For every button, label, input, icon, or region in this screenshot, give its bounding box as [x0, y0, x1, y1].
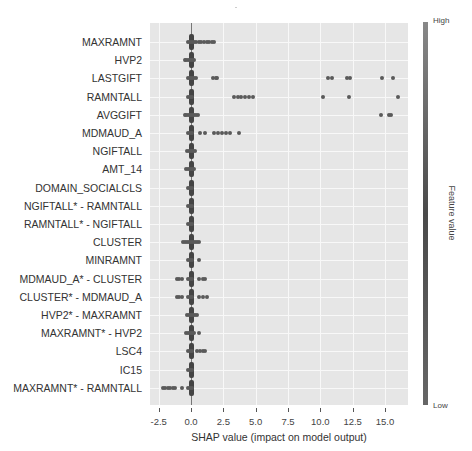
x-tick-mark	[288, 408, 289, 412]
x-tick-mark	[191, 408, 192, 412]
shap-point	[196, 113, 200, 117]
x-tick-mark	[385, 408, 386, 412]
shap-point	[190, 186, 194, 190]
shap-point	[228, 131, 232, 135]
feature-label: DOMAIN_SOCIALCLS	[35, 182, 142, 194]
feature-label: LSC4	[116, 345, 142, 357]
x-tick-mark	[320, 408, 321, 412]
shap-point	[215, 76, 219, 80]
feature-label: MINRAMNT	[85, 254, 142, 266]
x-tick-label: 12.5	[343, 416, 362, 427]
vertical-gridline	[353, 23, 354, 405]
vertical-gridline	[320, 23, 321, 405]
feature-label: LASTGIFT	[92, 72, 142, 84]
colorbar-high-label: High	[433, 16, 449, 25]
shap-point	[203, 277, 207, 281]
vertical-gridline	[256, 23, 257, 405]
feature-label: CLUSTER	[93, 236, 142, 248]
feature-label: RAMNTALL* - NGIFTALL	[24, 218, 142, 230]
shap-point	[197, 258, 201, 262]
shap-point	[198, 131, 202, 135]
x-tick-label: 10.0	[311, 416, 330, 427]
feature-value-colorbar	[423, 22, 428, 405]
shap-point	[396, 95, 400, 99]
shap-point	[389, 113, 393, 117]
shap-point	[190, 131, 194, 135]
feature-label: HVP2	[115, 54, 142, 66]
shap-point	[348, 76, 352, 80]
shap-point	[190, 277, 194, 281]
shap-point	[190, 349, 194, 353]
shap-point	[197, 331, 201, 335]
x-tick-mark	[256, 408, 257, 412]
feature-label: HVP2* - MAXRAMNT	[41, 309, 142, 321]
vertical-gridline	[223, 23, 224, 405]
shap-point	[190, 95, 194, 99]
shap-point	[251, 95, 255, 99]
feature-label: AMT_14	[102, 163, 142, 175]
shap-point	[192, 167, 196, 171]
shap-point	[379, 113, 383, 117]
shap-point	[180, 277, 184, 281]
feature-label: MAXRAMNT	[82, 36, 142, 48]
vertical-gridline	[159, 23, 160, 405]
shap-point	[330, 76, 334, 80]
vertical-gridline	[385, 23, 386, 405]
shap-point	[212, 40, 216, 44]
feature-label: NGIFTALL* - RAMNTALL	[24, 200, 142, 212]
x-tick-label: 5.0	[249, 416, 262, 427]
shap-point	[391, 76, 395, 80]
x-tick-label: 7.5	[281, 416, 294, 427]
shap-point	[237, 131, 241, 135]
shap-point	[190, 295, 194, 299]
shap-point	[194, 76, 198, 80]
feature-label: CLUSTER* - MDMAUD_A	[19, 291, 142, 303]
x-tick-label: 2.5	[217, 416, 230, 427]
shap-point	[380, 76, 384, 80]
stray-mark	[235, 7, 237, 8]
shap-point	[347, 95, 351, 99]
x-tick-mark	[159, 408, 160, 412]
vertical-gridline	[288, 23, 289, 405]
shap-point	[205, 295, 209, 299]
y-axis-feature-labels: MAXRAMNTHVP2LASTGIFTRAMNTALLAVGGIFTMDMAU…	[0, 0, 142, 451]
feature-label: MDMAUD_A	[82, 127, 142, 139]
shap-point	[180, 295, 184, 299]
feature-label: MAXRAMNT* - RAMNTALL	[13, 382, 142, 394]
shap-point	[193, 149, 197, 153]
feature-label: NGIFTALL	[93, 145, 142, 157]
shap-point	[192, 58, 196, 62]
shap-point	[203, 349, 207, 353]
shap-point	[197, 240, 201, 244]
shap-point	[190, 222, 194, 226]
shap-point	[195, 313, 199, 317]
shap-point	[180, 386, 184, 390]
colorbar-title: Feature value	[447, 185, 457, 240]
x-tick-label: -2.5	[150, 416, 166, 427]
shap-point	[190, 386, 194, 390]
feature-label: MAXRAMNT* - HVP2	[41, 327, 142, 339]
shap-point	[173, 386, 177, 390]
shap-point	[321, 95, 325, 99]
colorbar-low-label: Low	[433, 401, 448, 410]
shap-point	[190, 204, 194, 208]
plot-area	[150, 23, 408, 405]
x-tick-mark	[353, 408, 354, 412]
x-tick-label: 15.0	[376, 416, 395, 427]
feature-label: IC15	[120, 364, 142, 376]
shap-point	[190, 368, 194, 372]
shap-point	[190, 258, 194, 262]
feature-label: MDMAUD_A* - CLUSTER	[19, 273, 142, 285]
x-tick-mark	[223, 408, 224, 412]
x-axis-label: SHAP value (impact on model output)	[191, 431, 366, 443]
feature-label: RAMNTALL	[87, 91, 142, 103]
shap-point	[192, 331, 196, 335]
x-tick-label: 0.0	[184, 416, 197, 427]
feature-label: AVGGIFT	[97, 109, 142, 121]
shap-point	[203, 131, 207, 135]
